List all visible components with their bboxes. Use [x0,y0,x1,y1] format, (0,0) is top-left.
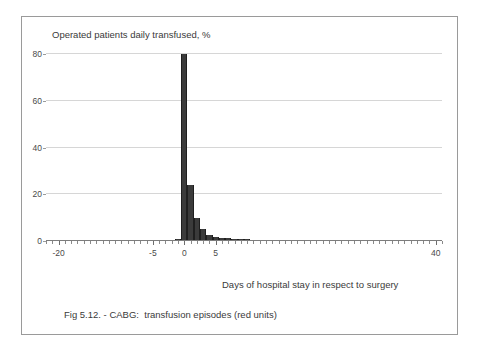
x-tick-minor [103,241,104,244]
x-tick-major [153,241,154,245]
x-tick-minor [253,241,254,244]
x-tick-minor [291,241,292,244]
x-tick-major [184,241,185,245]
x-tick-minor [172,241,173,244]
x-tick-minor [398,241,399,244]
x-tick-minor [316,241,317,244]
x-tick-minor [310,241,311,244]
x-tick-minor [115,241,116,244]
x-tick-minor [96,241,97,244]
x-tick-minor [90,241,91,244]
y-tick-label: 40 [33,143,42,153]
x-tick-minor [84,241,85,244]
figure-frame: Operated patients daily transfused, % 02… [21,16,458,335]
x-tick-minor [203,241,204,244]
x-tick-minor [354,241,355,244]
x-tick-minor [65,241,66,244]
x-tick-minor [348,241,349,244]
x-tick-minor [272,241,273,244]
x-tick-minor [367,241,368,244]
x-tick-minor [178,241,179,244]
x-tick-label: 5 [213,248,218,258]
gridline [46,147,442,148]
y-tick-label: 0 [37,236,42,246]
x-tick-minor [121,241,122,244]
x-tick-minor [417,241,418,244]
y-tick-label: 20 [33,189,42,199]
x-tick-minor [159,241,160,244]
x-tick-label: 40 [431,248,440,258]
x-tick-label: -20 [52,248,64,258]
x-tick-minor [297,241,298,244]
x-tick-minor [379,241,380,244]
x-tick-minor [241,241,242,244]
x-tick-major [216,241,217,245]
x-tick-minor [392,241,393,244]
x-tick-minor [385,241,386,244]
gridline [46,193,442,194]
x-tick-minor [77,241,78,244]
x-tick-minor [260,241,261,244]
y-tick-mark [43,194,46,195]
x-tick-minor [222,241,223,244]
x-tick-minor [442,241,443,244]
x-tick-minor [165,241,166,244]
x-tick-minor [404,241,405,244]
x-tick-minor [266,241,267,244]
x-tick-minor [373,241,374,244]
plot-area: 020406080 -20-50540 [46,54,442,241]
x-tick-minor [134,241,135,244]
x-tick-minor [247,241,248,244]
x-tick-minor [209,241,210,244]
x-tick-minor [411,241,412,244]
x-tick-minor [329,241,330,244]
x-axis-baseline [46,240,442,241]
x-axis-label: Days of hospital stay in respect to surg… [222,279,398,290]
x-tick-minor [147,241,148,244]
x-tick-label: -5 [149,248,157,258]
x-tick-minor [128,241,129,244]
x-tick-label: 0 [182,248,187,258]
x-tick-minor [341,241,342,244]
x-tick-minor [197,241,198,244]
x-tick-minor [360,241,361,244]
x-tick-minor [140,241,141,244]
y-tick-mark [43,148,46,149]
x-tick-minor [323,241,324,244]
y-tick-mark [43,101,46,102]
x-tick-major [436,241,437,245]
x-tick-minor [304,241,305,244]
x-tick-minor [109,241,110,244]
chart-title: Operated patients daily transfused, % [52,29,210,40]
x-tick-minor [191,241,192,244]
figure-caption: Fig 5.12. - CABG: transfusion episodes (… [64,309,277,320]
x-tick-minor [429,241,430,244]
x-tick-minor [228,241,229,244]
x-tick-minor [46,241,47,244]
x-tick-minor [335,241,336,244]
y-tick-label: 80 [33,49,42,59]
x-tick-minor [52,241,53,244]
x-tick-minor [285,241,286,244]
x-tick-minor [423,241,424,244]
x-tick-major [59,241,60,245]
gridline [46,53,442,54]
gridline [46,100,442,101]
x-tick-minor [279,241,280,244]
x-tick-minor [235,241,236,244]
y-tick-mark [43,54,46,55]
x-tick-minor [71,241,72,244]
y-tick-label: 60 [33,96,42,106]
